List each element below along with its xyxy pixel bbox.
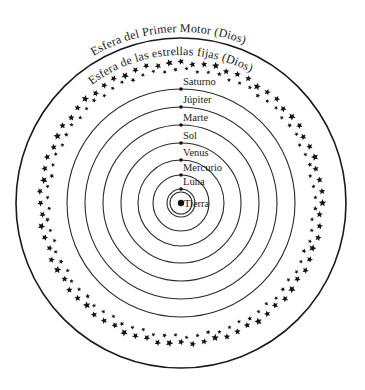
star-icon <box>238 81 242 85</box>
star-icon <box>78 115 82 119</box>
star-icon <box>319 188 325 194</box>
star-icon <box>280 116 284 120</box>
star-icon <box>151 333 155 337</box>
star-icon <box>299 260 303 264</box>
star-icon <box>85 106 89 110</box>
star-icon <box>60 143 64 147</box>
star-icon <box>46 196 50 200</box>
star-icon <box>295 270 299 274</box>
star-icon <box>120 329 127 336</box>
star-icon <box>224 333 230 339</box>
star-icon <box>206 70 210 74</box>
star-icon <box>319 199 326 206</box>
star-icon <box>294 276 300 282</box>
star-icon <box>45 184 49 188</box>
star-icon <box>288 286 295 293</box>
star-icon <box>201 338 207 344</box>
planet-label: Venus <box>183 147 209 158</box>
star-icon <box>54 266 61 273</box>
star-icon <box>316 211 322 217</box>
star-icon <box>47 207 51 211</box>
star-icon <box>303 152 307 156</box>
star-icon <box>190 341 196 347</box>
star-icon <box>40 177 47 184</box>
star-icon <box>302 249 307 254</box>
star-icon <box>111 86 115 90</box>
star-icon <box>39 212 45 218</box>
star-icon <box>288 113 295 120</box>
star-icon <box>174 333 178 337</box>
fixed-stars-label-text: Esfera de las estrellas fijas (Dios) <box>85 44 256 87</box>
star-icon <box>212 62 219 69</box>
star-icon <box>37 188 43 194</box>
star-icon <box>237 319 241 323</box>
star-icon <box>69 123 73 127</box>
star-icon <box>53 239 57 243</box>
sphere-marte: Marte <box>103 112 259 281</box>
star-icon <box>162 333 167 338</box>
star-icon <box>45 217 50 222</box>
earth: Tierra <box>170 192 210 214</box>
star-icon <box>143 63 149 69</box>
star-icon <box>38 223 45 230</box>
star-icon <box>48 228 52 232</box>
star-icon <box>274 106 278 110</box>
star-icon <box>82 95 89 102</box>
star-icon <box>91 311 97 317</box>
star-icon <box>130 326 134 330</box>
star-icon <box>311 184 315 188</box>
star-icon <box>92 304 96 308</box>
star-icon <box>280 287 285 292</box>
star-icon <box>66 287 72 293</box>
star-icon <box>211 334 218 341</box>
star-icon <box>48 257 54 263</box>
planet-dot-icon <box>179 87 183 91</box>
star-icon <box>312 166 318 172</box>
planet-label: Saturno <box>183 76 216 87</box>
star-icon <box>223 68 229 74</box>
star-icon <box>300 134 306 140</box>
star-icon <box>49 174 54 179</box>
star-icon <box>317 223 323 229</box>
star-icon <box>256 93 261 98</box>
star-icon <box>61 276 67 282</box>
star-icon <box>103 93 107 97</box>
planetary-spheres: SaturnoJúpiterMarteSolVenusMercurioLuna <box>67 76 295 317</box>
star-icon <box>307 162 312 167</box>
star-icon <box>286 278 290 282</box>
star-icon <box>166 59 173 66</box>
star-icon <box>42 234 48 240</box>
star-icon <box>101 82 107 88</box>
star-icon <box>254 318 261 325</box>
star-icon <box>256 310 260 314</box>
star-icon <box>166 339 173 346</box>
star-icon <box>307 256 313 262</box>
star-icon <box>296 123 302 129</box>
star-icon <box>59 122 65 128</box>
star-icon <box>274 296 278 300</box>
star-icon <box>254 83 261 90</box>
star-icon <box>64 132 69 137</box>
planet-label: Luna <box>183 176 205 187</box>
star-icon <box>141 73 145 77</box>
star-icon <box>316 177 322 183</box>
star-icon <box>313 195 317 199</box>
planet-dot-icon <box>179 123 183 127</box>
star-icon <box>155 63 161 69</box>
star-icon <box>111 75 117 81</box>
earth-label: Tierra <box>184 198 210 209</box>
star-icon <box>54 250 58 254</box>
star-icon <box>155 340 161 346</box>
star-icon <box>144 335 150 341</box>
star-icon <box>68 114 74 120</box>
star-icon <box>178 339 184 345</box>
star-icon <box>132 333 138 339</box>
star-icon <box>274 96 280 102</box>
star-icon <box>313 206 318 211</box>
star-icon <box>195 70 199 74</box>
star-icon <box>306 143 312 149</box>
star-icon <box>50 144 56 150</box>
star-icon <box>247 316 252 321</box>
star-icon <box>201 61 207 67</box>
star-icon <box>302 267 308 273</box>
